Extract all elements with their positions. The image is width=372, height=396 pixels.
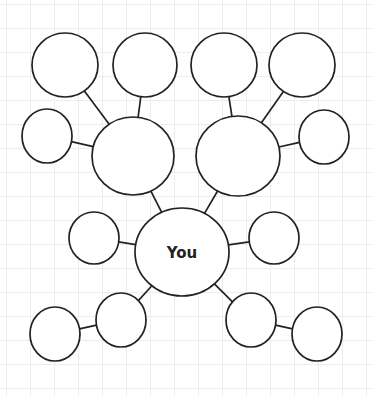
connector-center-mid-right	[228, 242, 249, 245]
connector-low-right-inner-low-right-outer	[276, 325, 293, 329]
bubble-map-diagram: You	[0, 0, 372, 396]
connector-hub-left-top-2	[138, 97, 141, 118]
connector-center-hub-right	[205, 191, 218, 213]
bubble-mid-left	[69, 212, 119, 264]
connector-low-left-inner-low-left-outer	[80, 325, 97, 329]
bubble-top-3	[191, 33, 257, 97]
bubble-nodes	[22, 33, 349, 361]
bubble-mid-right	[249, 212, 299, 264]
bubble-top-4	[269, 33, 335, 97]
connector-center-low-left-inner	[138, 286, 151, 301]
connector-hub-right-top-4	[261, 91, 283, 122]
connector-hub-right-top-3	[229, 97, 232, 117]
center-node-label: You	[166, 244, 197, 262]
connector-hub-left-top-1	[84, 91, 109, 124]
bubble-side-left	[22, 109, 72, 163]
bubble-low-right-outer	[292, 307, 342, 361]
bubble-low-left-outer	[30, 307, 80, 361]
bubble-hub-left	[92, 117, 174, 195]
bubble-side-right	[299, 110, 349, 164]
bubble-low-left-inner	[96, 293, 146, 347]
connector-center-mid-left	[119, 242, 136, 245]
bubble-hub-right	[196, 116, 280, 196]
connector-hub-left-side-left	[71, 142, 93, 147]
bubble-top-2	[113, 33, 177, 97]
connector-center-hub-left	[151, 191, 162, 212]
bubble-top-1	[32, 33, 98, 97]
connector-hub-right-side-right	[279, 142, 300, 147]
bubble-low-right-inner	[226, 293, 276, 347]
connector-center-low-right-inner	[214, 284, 232, 302]
